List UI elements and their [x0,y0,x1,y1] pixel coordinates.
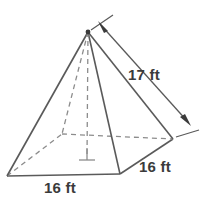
base-edge-front-left [7,174,120,176]
lateral-edge-back-hidden [62,32,88,134]
label-slant-height: 17 ft [128,67,160,82]
apex-vertex-dot [86,30,91,35]
lateral-edge-left [7,32,88,176]
dimension-extension-line-bottom [176,130,199,137]
label-base-edge-front: 16 ft [44,180,76,195]
pyramid-figure: 17 ft 16 ft 16 ft [0,0,208,198]
dimension-arrowhead-top [98,21,108,33]
pyramid-drawing [0,0,208,198]
base-edge-back-left-hidden [7,134,62,176]
altitude-line-hidden [87,32,88,158]
base-edge-back-right-hidden [62,134,173,139]
label-base-edge-right: 16 ft [139,159,171,174]
